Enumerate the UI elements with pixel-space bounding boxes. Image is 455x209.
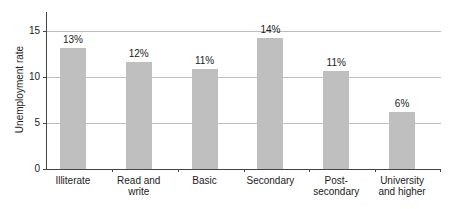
gridline — [47, 77, 441, 78]
x-tick-mark — [375, 169, 376, 172]
data-label: 11% — [306, 57, 366, 68]
x-tick-mark — [112, 169, 113, 172]
y-axis-label: Unemployment rate — [14, 35, 25, 145]
bar — [257, 38, 283, 169]
bar-chart: Unemployment rate 05101513%Illiterate12%… — [0, 0, 455, 209]
y-tick-label: 0 — [20, 163, 40, 174]
y-tick-label: 15 — [20, 25, 40, 36]
bar — [323, 71, 349, 169]
x-tick-mark — [440, 169, 441, 172]
data-label: 6% — [372, 98, 432, 109]
y-tick-label: 5 — [20, 117, 40, 128]
data-label: 13% — [43, 34, 103, 45]
x-tick-mark — [244, 169, 245, 172]
y-tick-label: 10 — [20, 71, 40, 82]
bar — [192, 69, 218, 169]
bar — [126, 62, 152, 169]
data-label: 12% — [109, 48, 169, 59]
x-tick-label: University and higher — [362, 175, 442, 197]
bar — [389, 112, 415, 169]
bar — [60, 48, 86, 169]
data-label: 14% — [240, 24, 300, 35]
x-tick-mark — [309, 169, 310, 172]
gridline — [47, 123, 441, 124]
data-label: 11% — [175, 55, 235, 66]
x-tick-mark — [178, 169, 179, 172]
